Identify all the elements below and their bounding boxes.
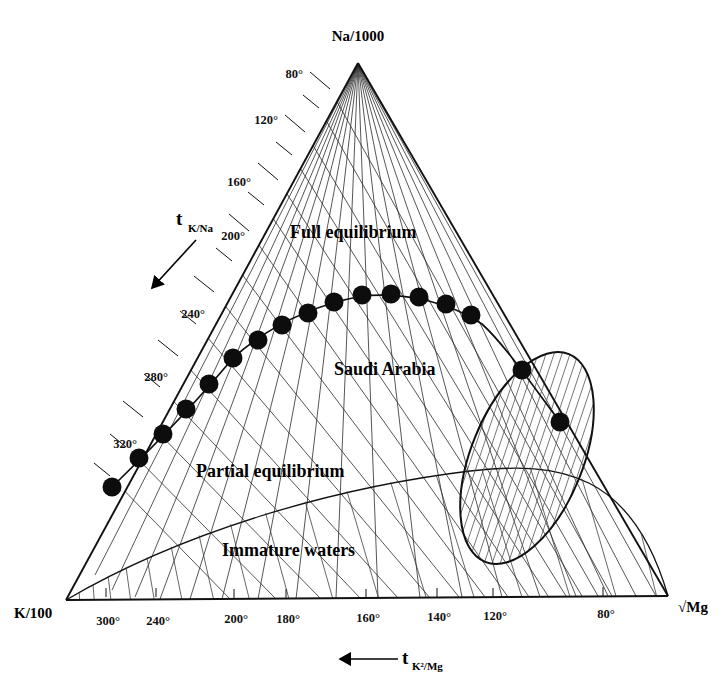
data-point — [154, 425, 173, 444]
data-point — [437, 295, 456, 314]
data-point — [462, 306, 481, 325]
bottom-tick-label: 180° — [276, 612, 300, 626]
data-point — [177, 400, 196, 419]
bottom-tick-label: 80° — [597, 607, 615, 621]
vertex-label-top: Na/1000 — [332, 28, 385, 44]
data-point — [513, 361, 532, 380]
data-point — [325, 293, 344, 312]
data-point — [382, 285, 401, 304]
data-point — [103, 478, 122, 497]
left-axis-name: t — [176, 208, 183, 229]
annotation-saudi-arabia: Saudi Arabia — [334, 359, 436, 379]
ternary-diagram-svg: Na/1000 K/100 √Mg 80° 120° 160° 200° 240… — [0, 0, 723, 692]
left-tick-label: 280° — [144, 370, 168, 384]
bottom-tick-label: 300° — [96, 614, 120, 628]
left-tick-label: 160° — [227, 175, 251, 189]
bottom-axis-name-group: t K²/Mg — [340, 647, 443, 672]
bottom-tick-label: 200° — [224, 612, 248, 626]
data-point — [353, 286, 372, 305]
left-tick-label: 200° — [221, 229, 245, 243]
bottom-axis-tick-labels: 300° 240° 200° 180° 160° 140° 120° 80° — [96, 607, 615, 628]
data-point — [273, 316, 292, 335]
data-point — [200, 375, 219, 394]
region-label-partial-equilibrium: Partial equilibrium — [196, 461, 345, 481]
iso-temperature-lines-group — [110, 89, 612, 599]
left-tick-label: 120° — [254, 113, 278, 127]
left-axis-tick-marks — [94, 72, 330, 476]
vertex-label-bottom-left: K/100 — [14, 605, 52, 621]
fan-lines-group — [95, 63, 656, 599]
bottom-tick-label: 120° — [483, 609, 507, 623]
bottom-tick-label: 160° — [356, 611, 380, 625]
bottom-tick-label: 240° — [146, 614, 170, 628]
left-tick-label: 320° — [113, 437, 137, 451]
data-point — [130, 449, 149, 468]
vertex-label-bottom-right: √Mg — [678, 599, 708, 615]
figure-canvas: Na/1000 K/100 √Mg 80° 120° 160° 200° 240… — [0, 0, 723, 692]
left-axis-name-group: t K/Na — [152, 208, 214, 288]
left-axis-subscript: K/Na — [188, 222, 214, 234]
left-tick-label: 240° — [181, 307, 205, 321]
left-tick-label: 80° — [286, 67, 304, 81]
bottom-axis-name: t — [402, 647, 409, 668]
region-label-immature-waters: Immature waters — [222, 540, 355, 560]
data-point — [299, 304, 318, 323]
data-point — [249, 331, 268, 350]
data-point — [224, 349, 243, 368]
data-point — [551, 413, 570, 432]
bottom-axis-subscript: K²/Mg — [412, 660, 443, 672]
bottom-tick-label: 140° — [427, 610, 451, 624]
data-point — [410, 288, 429, 307]
region-label-full-equilibrium: Full equilibrium — [290, 222, 417, 242]
